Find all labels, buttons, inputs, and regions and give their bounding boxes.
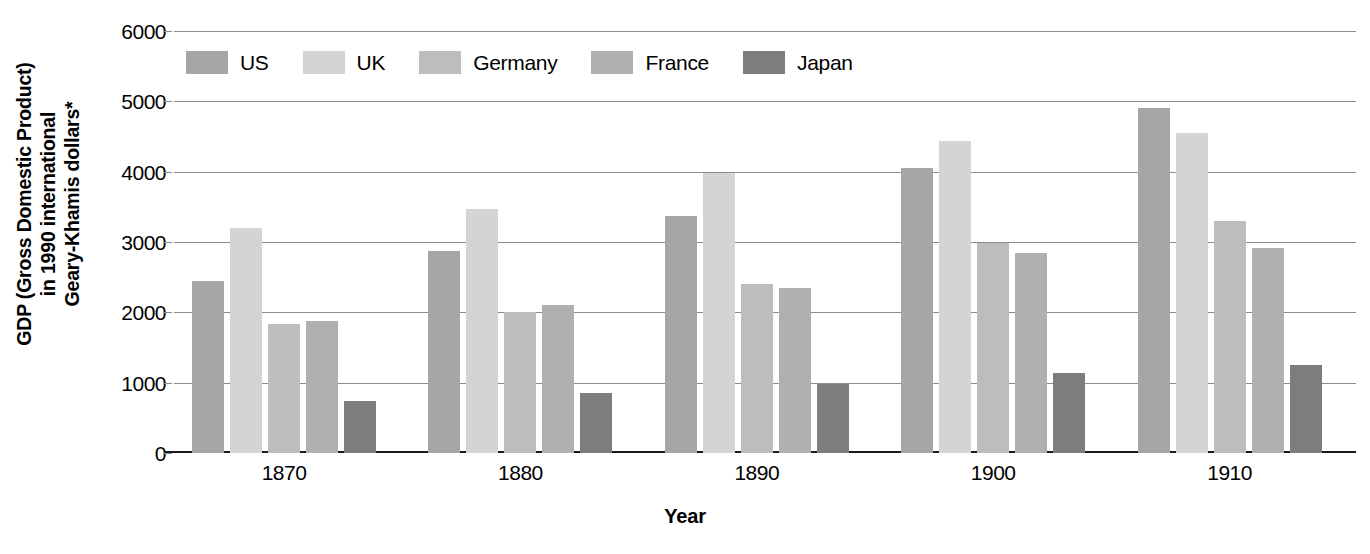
bar-france-1900 <box>1015 253 1047 453</box>
y-axis-tick <box>163 383 172 384</box>
legend-label: France <box>645 52 709 73</box>
legend-swatch-icon <box>419 51 461 74</box>
bar-uk-1890 <box>703 173 735 453</box>
bar-germany-1900 <box>977 243 1009 453</box>
bar-japan-1870 <box>344 401 376 453</box>
x-axis-title: Year <box>0 505 1370 528</box>
bar-germany-1880 <box>504 312 536 453</box>
x-axis-tick-label: 1900 <box>903 462 1083 483</box>
bar-japan-1910 <box>1290 365 1322 453</box>
bar-chart: GDP (Gross Domestic Product) in 1990 int… <box>0 0 1370 554</box>
x-axis-tick-label: 1910 <box>1140 462 1320 483</box>
legend-item-france[interactable]: France <box>591 51 709 74</box>
legend-label: UK <box>357 52 386 73</box>
bar-germany-1870 <box>268 324 300 453</box>
bar-japan-1900 <box>1053 373 1085 453</box>
legend-label: Japan <box>797 52 853 73</box>
bar-france-1890 <box>779 288 811 453</box>
legend-swatch-icon <box>303 51 345 74</box>
y-axis-tick <box>163 172 172 173</box>
chart-legend: USUKGermanyFranceJapan <box>186 47 853 77</box>
legend-label: US <box>240 52 269 73</box>
legend-swatch-icon <box>186 51 228 74</box>
bar-us-1910 <box>1138 108 1170 453</box>
bar-group <box>647 31 883 453</box>
y-axis-tick <box>163 312 172 313</box>
y-axis-tick <box>163 101 172 102</box>
plot-area <box>174 31 1356 453</box>
y-axis-tick-label: 3000 <box>94 232 166 253</box>
x-axis-tick-label: 1880 <box>430 462 610 483</box>
legend-item-japan[interactable]: Japan <box>743 51 853 74</box>
bar-germany-1890 <box>741 284 773 453</box>
y-axis-tick-label: 6000 <box>94 21 166 42</box>
y-axis-tick-label: 0 <box>94 443 166 464</box>
bar-group <box>174 31 410 453</box>
bar-group <box>1120 31 1356 453</box>
y-axis-title: GDP (Gross Domestic Product) in 1990 int… <box>12 4 84 404</box>
legend-item-uk[interactable]: UK <box>303 51 386 74</box>
bar-france-1910 <box>1252 248 1284 453</box>
bar-us-1880 <box>428 251 460 453</box>
bar-france-1870 <box>306 321 338 453</box>
bar-france-1880 <box>542 305 574 453</box>
x-axis-tick-label: 1870 <box>194 462 374 483</box>
legend-item-germany[interactable]: Germany <box>419 51 557 74</box>
legend-swatch-icon <box>591 51 633 74</box>
bar-japan-1890 <box>817 384 849 453</box>
bar-us-1870 <box>192 281 224 453</box>
bar-germany-1910 <box>1214 221 1246 453</box>
x-axis-tick-label: 1890 <box>667 462 847 483</box>
y-axis-tick-label: 4000 <box>94 162 166 183</box>
y-axis-tick <box>163 242 172 243</box>
bar-us-1900 <box>901 168 933 453</box>
legend-swatch-icon <box>743 51 785 74</box>
y-axis-tick-label: 2000 <box>94 302 166 323</box>
y-axis-tick-label: 1000 <box>94 373 166 394</box>
bar-uk-1870 <box>230 228 262 453</box>
bar-group <box>410 31 646 453</box>
bar-uk-1910 <box>1176 133 1208 453</box>
legend-item-us[interactable]: US <box>186 51 269 74</box>
bar-japan-1880 <box>580 393 612 453</box>
bar-group <box>883 31 1119 453</box>
y-axis-tick-labels: 0100020003000400050006000 <box>90 0 166 554</box>
y-axis-tick <box>163 31 172 32</box>
bar-uk-1880 <box>466 209 498 453</box>
bar-us-1890 <box>665 216 697 453</box>
legend-label: Germany <box>473 52 557 73</box>
bar-uk-1900 <box>939 141 971 453</box>
y-axis-tick-label: 5000 <box>94 91 166 112</box>
y-axis-tick <box>163 453 172 454</box>
